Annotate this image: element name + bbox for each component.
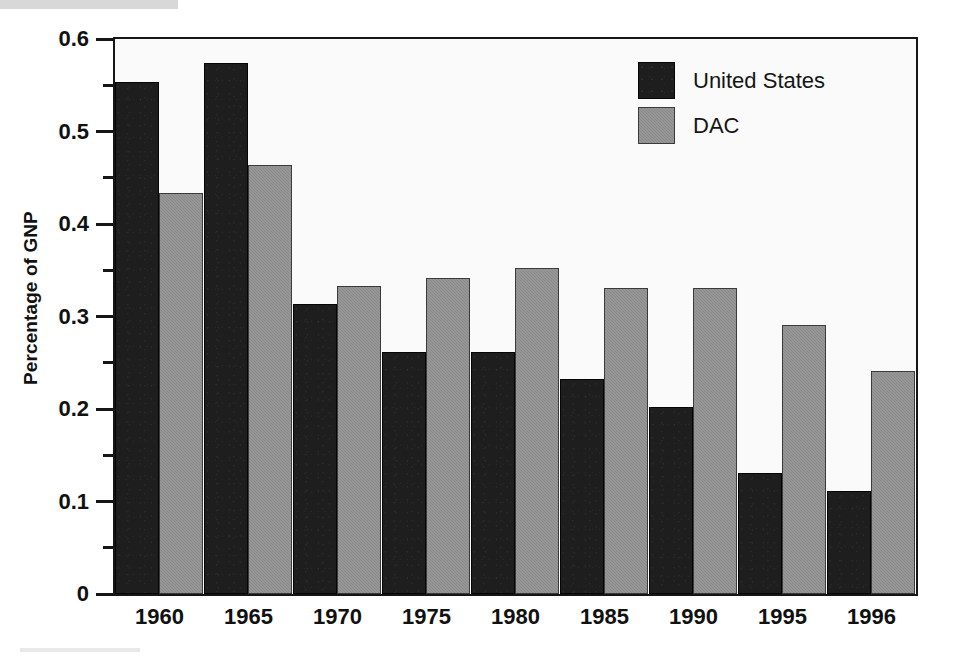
bar-united-states-1960	[115, 82, 159, 594]
y-tick-label: 0.3	[58, 303, 89, 331]
bar-group	[293, 39, 381, 594]
y-tick-mark	[96, 223, 113, 226]
y-tick-mark	[96, 593, 113, 596]
bar-group	[204, 39, 292, 594]
bar-group	[115, 39, 203, 594]
y-tick-mark	[96, 315, 113, 318]
bar-united-states-1985	[560, 379, 604, 594]
x-axis-label-1995: 1995	[738, 604, 827, 630]
x-axis-label-1985: 1985	[560, 604, 649, 630]
x-axis-label-1960: 1960	[115, 604, 204, 630]
bar-group	[560, 39, 648, 594]
bar-group	[827, 39, 915, 594]
legend-swatch-us	[638, 62, 675, 99]
y-tick-mark	[96, 500, 113, 503]
y-tick-label: 0.4	[58, 210, 89, 238]
y-tick-mark	[96, 38, 113, 41]
x-axis-label-1996: 1996	[827, 604, 916, 630]
x-axis-labels: 196019651970197519801985199019951996	[115, 604, 916, 644]
y-tick-mark	[96, 130, 113, 133]
bar-group	[382, 39, 470, 594]
x-axis-label-1970: 1970	[293, 604, 382, 630]
bar-united-states-1990	[649, 407, 693, 594]
bar-dac-1965	[248, 165, 292, 594]
y-tick-label: 0.1	[58, 488, 89, 516]
y-tick-mark	[103, 546, 113, 549]
bar-united-states-1975	[382, 352, 426, 594]
y-tick-mark	[103, 176, 113, 179]
bar-dac-1990	[693, 288, 737, 594]
bar-dac-1980	[515, 268, 559, 594]
bar-united-states-1965	[204, 63, 248, 594]
bar-united-states-1970	[293, 304, 337, 594]
y-tick-mark	[103, 454, 113, 457]
bar-dac-1995	[782, 325, 826, 594]
y-tick-mark	[103, 269, 113, 272]
x-axis-label-1965: 1965	[204, 604, 293, 630]
bar-united-states-1980	[471, 352, 515, 594]
chart-page: Percentage of GNP 00.10.20.30.40.50.6 19…	[0, 0, 975, 659]
legend-label-dac: DAC	[693, 113, 739, 139]
y-tick-label: 0	[77, 580, 89, 608]
y-tick-mark	[103, 84, 113, 87]
x-axis-label-1990: 1990	[649, 604, 738, 630]
y-tick-label: 0.6	[58, 25, 89, 53]
y-tick-label: 0.2	[58, 395, 89, 423]
legend-item-us: United States	[638, 58, 825, 103]
bar-dac-1985	[604, 288, 648, 594]
bar-dac-1975	[426, 278, 470, 594]
x-axis-label-1980: 1980	[471, 604, 560, 630]
bar-united-states-1995	[738, 473, 782, 594]
bar-united-states-1996	[827, 491, 871, 594]
y-axis-ticks: 00.10.20.30.40.50.6	[0, 0, 113, 659]
bar-group	[471, 39, 559, 594]
y-tick-mark	[96, 408, 113, 411]
legend-swatch-dac	[638, 107, 675, 144]
bar-dac-1960	[159, 193, 203, 594]
legend-item-dac: DAC	[638, 103, 825, 148]
legend-label-us: United States	[693, 68, 825, 94]
x-axis-label-1975: 1975	[382, 604, 471, 630]
y-tick-label: 0.5	[58, 118, 89, 146]
y-tick-mark	[103, 361, 113, 364]
bar-dac-1970	[337, 286, 381, 594]
bar-dac-1996	[871, 371, 915, 594]
legend: United StatesDAC	[638, 58, 825, 148]
